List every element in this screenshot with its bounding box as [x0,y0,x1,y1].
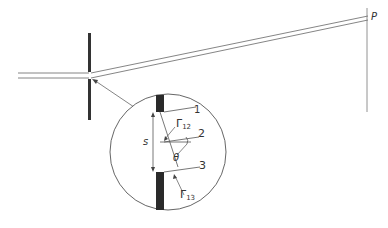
incident-beam [18,73,89,78]
ray-1-label: 1 [194,104,200,115]
ray-2-label: 2 [198,127,205,140]
slit-barrier [88,33,91,120]
ray-3-label: 3 [199,159,206,172]
double-slit-diagram: P 1 2 3 θ s Γ12 Γ13 [0,0,388,228]
pointer-arrowhead [92,79,98,84]
magnifier-pointer [94,80,134,107]
angle-label: θ [173,152,179,163]
separation-label: s [143,136,148,147]
rays-to-p [91,16,368,78]
point-p-label: P [371,11,378,22]
